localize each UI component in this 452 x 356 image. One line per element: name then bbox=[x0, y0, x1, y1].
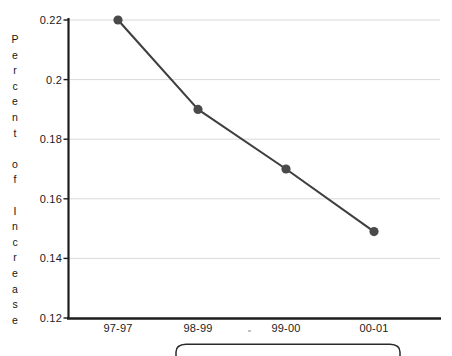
line-chart: PercentofIncrease 0.220.20.180.160.140.1… bbox=[0, 0, 452, 356]
gridlines bbox=[69, 20, 441, 258]
data-point-marker bbox=[281, 164, 290, 173]
scan-speck bbox=[248, 330, 251, 332]
data-point-marker bbox=[369, 227, 378, 236]
data-point-marker bbox=[113, 15, 122, 24]
legend-box bbox=[176, 344, 400, 356]
plot-area bbox=[0, 0, 452, 356]
data-point-markers bbox=[113, 15, 378, 236]
data-point-marker bbox=[193, 105, 202, 114]
data-series-line bbox=[118, 20, 374, 232]
